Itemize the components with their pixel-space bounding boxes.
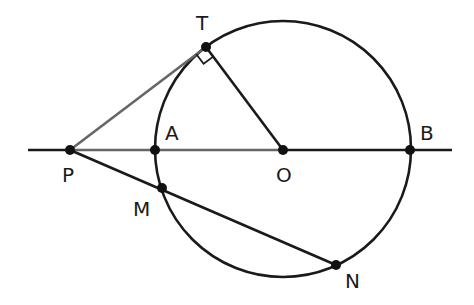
point-N [331, 260, 341, 270]
label-T: T [195, 11, 209, 35]
label-N: N [345, 269, 360, 293]
label-M: M [133, 197, 150, 221]
right-angle-marker [196, 54, 213, 64]
point-P [65, 145, 75, 155]
tangent-PT [70, 47, 206, 150]
point-M [157, 183, 167, 193]
point-A [150, 145, 160, 155]
point-T [201, 42, 211, 52]
point-O [278, 145, 288, 155]
radius-OT [206, 47, 283, 150]
label-A: A [165, 121, 179, 145]
label-O: O [276, 163, 292, 187]
geometry-diagram: T P A O B M N [0, 0, 474, 305]
label-B: B [420, 121, 434, 145]
label-P: P [62, 163, 74, 187]
point-B [405, 145, 415, 155]
